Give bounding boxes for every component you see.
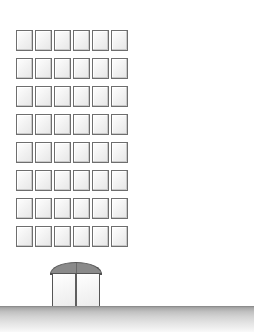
window-r4-c4	[73, 114, 90, 135]
window-r5-c2	[35, 142, 52, 163]
window-r5-c4	[73, 142, 90, 163]
window-r2-c1	[16, 58, 33, 79]
window-r5-c1	[16, 142, 33, 163]
window-row-7	[0, 198, 254, 219]
window-row-5	[0, 142, 254, 163]
window-r8-c6	[111, 226, 128, 247]
window-r7-c1	[16, 198, 33, 219]
window-r8-c5	[92, 226, 109, 247]
window-r1-c2	[35, 30, 52, 51]
window-r4-c5	[92, 114, 109, 135]
window-r6-c6	[111, 170, 128, 191]
window-r2-c2	[35, 58, 52, 79]
window-row-8	[0, 226, 254, 247]
window-r3-c4	[73, 86, 90, 107]
window-row-6	[0, 170, 254, 191]
window-r3-c3	[54, 86, 71, 107]
building-illustration	[0, 0, 254, 332]
window-r3-c2	[35, 86, 52, 107]
window-grid	[0, 0, 254, 332]
window-r8-c3	[54, 226, 71, 247]
window-r7-c3	[54, 198, 71, 219]
window-r5-c5	[92, 142, 109, 163]
window-r7-c4	[73, 198, 90, 219]
window-r5-c3	[54, 142, 71, 163]
window-r2-c5	[92, 58, 109, 79]
window-r1-c3	[54, 30, 71, 51]
window-r5-c6	[111, 142, 128, 163]
door-panel-right[interactable]	[76, 274, 99, 306]
window-r1-c5	[92, 30, 109, 51]
window-row-4	[0, 114, 254, 135]
window-r8-c2	[35, 226, 52, 247]
window-r7-c6	[111, 198, 128, 219]
window-r6-c1	[16, 170, 33, 191]
window-r4-c1	[16, 114, 33, 135]
window-r1-c1	[16, 30, 33, 51]
window-row-2	[0, 58, 254, 79]
window-r2-c6	[111, 58, 128, 79]
window-r4-c2	[35, 114, 52, 135]
window-r1-c4	[73, 30, 90, 51]
window-r4-c3	[54, 114, 71, 135]
entrance-door[interactable]	[52, 273, 100, 307]
window-r3-c6	[111, 86, 128, 107]
window-r3-c5	[92, 86, 109, 107]
door-mullion	[75, 274, 77, 306]
ground-plane	[0, 307, 254, 332]
window-r8-c1	[16, 226, 33, 247]
window-r6-c3	[54, 170, 71, 191]
window-r8-c4	[73, 226, 90, 247]
window-r4-c6	[111, 114, 128, 135]
door-panel-left[interactable]	[53, 274, 76, 306]
window-r2-c3	[54, 58, 71, 79]
window-row-1	[0, 30, 254, 51]
window-r3-c1	[16, 86, 33, 107]
window-r6-c4	[73, 170, 90, 191]
window-row-3	[0, 86, 254, 107]
window-r7-c2	[35, 198, 52, 219]
window-r7-c5	[92, 198, 109, 219]
window-r6-c2	[35, 170, 52, 191]
window-r1-c6	[111, 30, 128, 51]
window-r6-c5	[92, 170, 109, 191]
window-r2-c4	[73, 58, 90, 79]
